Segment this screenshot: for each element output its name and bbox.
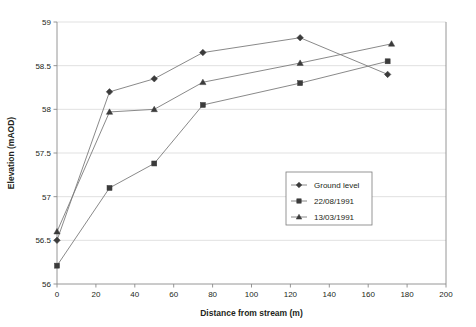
marker-square — [298, 81, 303, 86]
y-tick-label: 57 — [42, 193, 51, 202]
marker-square — [200, 102, 205, 107]
series-2 — [55, 59, 391, 268]
x-tick-label: 40 — [130, 290, 139, 299]
marker-triangle — [388, 41, 394, 46]
marker-diamond — [106, 89, 113, 96]
marker-triangle — [54, 228, 60, 233]
x-tick-label: 100 — [245, 290, 259, 299]
marker-square — [385, 59, 390, 64]
x-tick-label: 60 — [169, 290, 178, 299]
y-axis-ticks: 5656.55757.55858.559 — [35, 18, 57, 289]
marker-diamond — [54, 237, 61, 244]
marker-diamond — [200, 49, 207, 56]
x-axis-ticks: 020406080100120140160180200 — [55, 284, 453, 299]
marker-diamond — [151, 76, 158, 83]
x-tick-label: 180 — [400, 290, 414, 299]
legend-label: Ground level — [314, 181, 360, 190]
x-tick-label: 160 — [362, 290, 376, 299]
x-tick-label: 80 — [208, 290, 217, 299]
x-tick-label: 200 — [439, 290, 453, 299]
x-tick-label: 20 — [91, 290, 100, 299]
x-tick-label: 120 — [284, 290, 298, 299]
data-series-group — [54, 34, 395, 268]
marker-square — [297, 199, 301, 203]
y-tick-label: 56 — [42, 280, 51, 289]
y-tick-label: 56.5 — [35, 236, 51, 245]
legend-label: 13/03/1991 — [314, 213, 355, 222]
x-axis-title: Distance from stream (m) — [200, 308, 303, 318]
y-axis-title: Elevation (mAOD) — [6, 117, 16, 189]
marker-diamond — [384, 71, 391, 78]
gridlines — [57, 22, 446, 240]
elevation-line-chart: 020406080100120140160180200 5656.55757.5… — [0, 0, 476, 327]
legend-label: 22/08/1991 — [314, 197, 355, 206]
marker-square — [152, 161, 157, 166]
marker-square — [55, 263, 60, 268]
x-tick-label: 140 — [323, 290, 337, 299]
legend: Ground level22/08/199113/03/1991 — [286, 172, 372, 225]
y-tick-label: 57.5 — [35, 149, 51, 158]
y-tick-label: 59 — [42, 18, 51, 27]
marker-diamond — [297, 34, 304, 41]
y-tick-label: 58 — [42, 105, 51, 114]
y-tick-label: 58.5 — [35, 62, 51, 71]
marker-square — [107, 185, 112, 190]
x-tick-label: 0 — [55, 290, 60, 299]
